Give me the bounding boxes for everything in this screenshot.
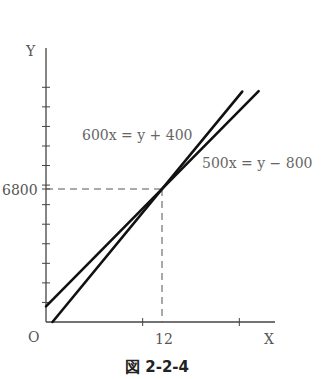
y-tick-label-6800: 6800 bbox=[2, 182, 38, 198]
equation-label-line1: 600x = y + 400 bbox=[82, 127, 193, 143]
x-tick-label-12: 12 bbox=[155, 331, 173, 347]
figure-caption: 図 2-2-4 bbox=[125, 358, 189, 376]
x-axis-label: X bbox=[264, 331, 274, 347]
origin-label: O bbox=[28, 329, 39, 345]
series-line-2 bbox=[46, 91, 259, 306]
chart: Y X O 6800 12 600x = y + 400 500x = y − … bbox=[0, 0, 325, 379]
y-axis-label: Y bbox=[25, 43, 36, 59]
equation-label-line2: 500x = y − 800 bbox=[202, 155, 313, 171]
